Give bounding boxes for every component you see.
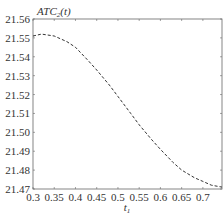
y-tick-label: 21.53 (5, 70, 30, 82)
y-tick-label: 21.48 (5, 164, 30, 176)
y-tick-label: 21.50 (5, 126, 30, 138)
cropped-caption (0, 214, 224, 224)
y-tick-label: 21.47 (5, 183, 30, 195)
x-axis-label: t1 (124, 201, 131, 215)
x-tick-label: 0.45 (87, 191, 107, 203)
y-tick-label: 21.52 (5, 89, 30, 101)
y-tick-label: 21.55 (5, 32, 30, 44)
data-line (33, 34, 222, 187)
y-tick-label: 21.51 (5, 107, 30, 119)
x-tick-label: 0.65 (172, 191, 192, 203)
x-tick-label: 0.7 (196, 191, 210, 203)
y-tick-label: 21.49 (5, 145, 30, 157)
x-tick-label: 0.35 (45, 191, 65, 203)
x-tick-label: 0.4 (69, 191, 83, 203)
y-tick-label: 21.56 (5, 13, 30, 25)
y-tick-label: 21.54 (5, 51, 30, 63)
x-tick-label: 0.55 (130, 191, 150, 203)
line-chart: 0.30.350.40.450.50.550.60.650.721.5621.5… (0, 0, 224, 224)
plot-frame (33, 19, 222, 189)
x-tick-label: 0.6 (154, 191, 168, 203)
y-axis-label: ATC2(t) (36, 5, 71, 19)
